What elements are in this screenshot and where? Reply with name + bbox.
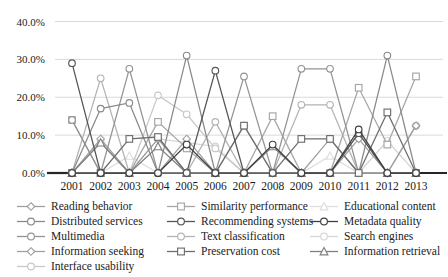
- legend-label: Similarity performance: [201, 199, 308, 214]
- circle-marker: [126, 100, 133, 107]
- legend-item-metadata-quality: Metadata quality: [309, 214, 446, 229]
- legend-item-information-seeking: Information seeking: [16, 244, 166, 259]
- legend-swatch-metadata-quality: [309, 216, 339, 227]
- circle-marker: [69, 170, 76, 177]
- legend-swatch-interface-usability: [16, 261, 46, 272]
- y-tick-label-10: 10.0%: [17, 129, 45, 141]
- circle-marker: [155, 170, 162, 177]
- legend-label: Information retrieval: [344, 244, 440, 259]
- legend-item-preservation-cost: Preservation cost: [166, 244, 309, 259]
- square-marker: [155, 134, 162, 141]
- square-marker: [155, 119, 162, 126]
- circle-marker: [327, 170, 334, 177]
- x-tick-label-2007: 2007: [233, 180, 256, 192]
- circle-marker: [298, 170, 305, 177]
- series-distributed-services: [69, 52, 420, 176]
- legend-item-information-retrieval: Information retrieval: [309, 244, 446, 259]
- square-marker: [355, 170, 362, 177]
- circle-marker: [69, 60, 76, 67]
- legend-swatch-multimedia: [16, 231, 46, 242]
- circle-marker: [298, 102, 305, 109]
- legend-label: Preservation cost: [201, 244, 280, 259]
- legend-item-text-classification: Text classification: [166, 229, 309, 244]
- square-marker: [384, 109, 391, 116]
- legend-swatch-preservation-cost: [166, 246, 196, 257]
- circle-marker: [183, 111, 190, 118]
- legend-item-search-engines: Search engines: [309, 229, 446, 244]
- square-marker: [178, 203, 185, 210]
- circle-marker: [269, 170, 276, 177]
- legend-item-reading-behavior: Reading behavior: [16, 199, 166, 214]
- circle-marker: [126, 66, 133, 73]
- circle-marker: [155, 92, 162, 99]
- x-tick-label-2003: 2003: [118, 180, 141, 192]
- circle-marker: [212, 170, 219, 177]
- y-tick-label-30: 30.0%: [17, 53, 45, 65]
- x-tick-label-2011: 2011: [347, 180, 370, 192]
- legend-item-interface-usability: Interface usability: [16, 259, 166, 274]
- y-tick-label-20: 20.0%: [17, 91, 45, 103]
- square-marker: [384, 141, 391, 148]
- circle-marker: [183, 52, 190, 59]
- circle-marker: [355, 126, 362, 133]
- legend-swatch-search-engines: [309, 231, 339, 242]
- legend-label: Reading behavior: [51, 199, 132, 214]
- legend-swatch-distributed-services: [16, 216, 46, 227]
- legend-swatch-recommending-systems: [166, 216, 196, 227]
- square-marker: [241, 122, 248, 129]
- square-marker: [413, 73, 420, 80]
- x-tick-label-2001: 2001: [61, 180, 84, 192]
- legend-swatch-text-classification: [166, 231, 196, 242]
- x-tick-label-2006: 2006: [204, 180, 227, 192]
- circle-marker: [327, 66, 334, 73]
- legend-label: Multimedia: [51, 229, 105, 244]
- diamond-marker: [27, 248, 35, 256]
- circle-marker: [178, 218, 185, 225]
- legend-label: Metadata quality: [344, 214, 422, 229]
- legend-swatch-similarity-performance: [166, 201, 196, 212]
- circle-marker: [212, 119, 219, 126]
- x-tick-label-2010: 2010: [319, 180, 342, 192]
- circle-marker: [241, 73, 248, 80]
- circle-marker: [384, 52, 391, 59]
- x-tick-label-2005: 2005: [175, 180, 198, 192]
- legend-swatch-reading-behavior: [16, 201, 46, 212]
- square-marker: [126, 136, 133, 143]
- legend-label: Text classification: [201, 229, 285, 244]
- circle-marker: [178, 233, 185, 240]
- diamond-marker: [27, 203, 35, 211]
- circle-marker: [321, 218, 328, 225]
- x-tick-label-2012: 2012: [376, 180, 399, 192]
- x-tick-label-2008: 2008: [261, 180, 284, 192]
- circle-marker: [413, 170, 420, 177]
- legend-swatch-information-retrieval: [309, 246, 339, 257]
- legend-label: Recommending systems: [201, 214, 313, 229]
- y-tick-label-40: 40.0%: [17, 16, 45, 28]
- circle-marker: [321, 233, 328, 240]
- circle-marker: [28, 233, 35, 240]
- legend-label: Search engines: [344, 229, 413, 244]
- plot-area: 0.0%10.0%20.0%30.0%40.0%2001200220032004…: [0, 0, 448, 199]
- circle-marker: [384, 170, 391, 177]
- legend-item-recommending-systems: Recommending systems: [166, 214, 309, 229]
- legend-label: Distributed services: [51, 214, 143, 229]
- triangle-marker: [154, 143, 162, 150]
- legend-label: Interface usability: [51, 259, 134, 274]
- circle-marker: [269, 141, 276, 148]
- square-marker: [178, 248, 185, 255]
- legend-swatch-educational-content: [309, 201, 339, 212]
- series-line-multimedia: [72, 69, 416, 173]
- circle-marker: [183, 170, 190, 177]
- circle-marker: [241, 170, 248, 177]
- circle-marker: [28, 263, 35, 270]
- x-tick-label-2002: 2002: [89, 180, 112, 192]
- circle-marker: [327, 102, 334, 109]
- topic-trends-line-chart: 0.0%10.0%20.0%30.0%40.0%2001200220032004…: [0, 0, 448, 277]
- circle-marker: [97, 170, 104, 177]
- legend-label: Educational content: [344, 199, 436, 214]
- legend-item-educational-content: Educational content: [309, 199, 446, 214]
- chart-legend: Reading behaviorSimilarity performanceEd…: [16, 199, 446, 274]
- square-marker: [327, 136, 334, 143]
- x-tick-label-2013: 2013: [405, 180, 428, 192]
- legend-item-similarity-performance: Similarity performance: [166, 199, 309, 214]
